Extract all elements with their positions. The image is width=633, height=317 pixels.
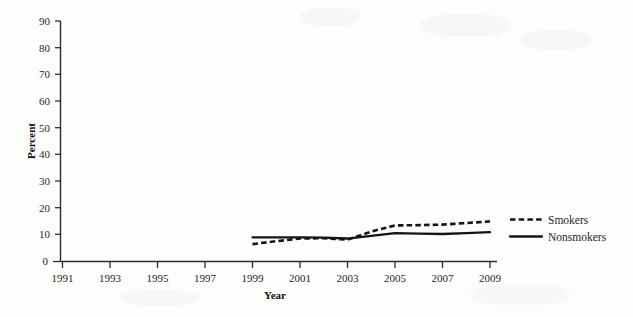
chart-figure: 90 80 70 60 50 40 30 20 10 0 1991 1993 1… <box>0 0 633 317</box>
x-tick-label: 2005 <box>384 272 407 284</box>
y-tick-label: 80 <box>39 42 51 54</box>
y-tick-label: 70 <box>39 68 51 80</box>
y-tick-label: 30 <box>39 175 51 187</box>
y-tick-label: 40 <box>39 148 51 160</box>
y-tick-label: 90 <box>39 15 51 27</box>
x-tick-label: 1991 <box>52 272 74 284</box>
legend-label-smokers: Smokers <box>548 214 589 226</box>
y-tick-label: 0 <box>43 255 49 267</box>
x-tick-label: 1995 <box>147 272 170 284</box>
x-axis <box>61 262 498 269</box>
series-line-nonsmokers <box>253 232 491 238</box>
x-tick-label: 2003 <box>337 272 360 284</box>
y-tick-label: 20 <box>39 202 51 214</box>
x-axis-title: Year <box>264 289 286 301</box>
x-tick-label: 2009 <box>479 272 502 284</box>
x-tick-label: 2001 <box>289 272 311 284</box>
x-tick-label: 1993 <box>99 272 122 284</box>
y-axis-title: Percent <box>25 123 37 159</box>
y-tick-label: 50 <box>39 122 51 134</box>
y-axis <box>53 21 61 262</box>
legend: Smokers Nonsmokers <box>510 214 607 243</box>
y-tick-labels: 90 80 70 60 50 40 30 20 10 0 <box>39 15 51 267</box>
chart-canvas: 90 80 70 60 50 40 30 20 10 0 1991 1993 1… <box>0 0 633 317</box>
x-tick-label: 1997 <box>194 272 217 284</box>
y-tick-label: 60 <box>39 95 51 107</box>
x-tick-label: 2007 <box>432 272 455 284</box>
legend-label-nonsmokers: Nonsmokers <box>548 231 607 243</box>
y-tick-label: 10 <box>39 228 51 240</box>
x-tick-label: 1999 <box>242 272 265 284</box>
x-tick-labels: 1991 1993 1995 1997 1999 2001 2003 2005 … <box>52 272 502 284</box>
